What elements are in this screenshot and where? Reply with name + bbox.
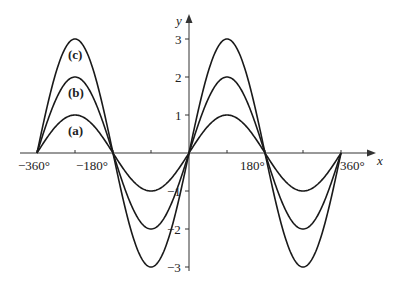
- curve-label-b: (b): [68, 85, 84, 100]
- x-tick-label-180: 180°: [240, 158, 265, 173]
- y-tick-label-2: 2: [175, 70, 182, 85]
- x-tick-label-neg360: −360°: [18, 158, 50, 173]
- y-tick-label-3: 3: [175, 32, 182, 47]
- y-tick-label-neg2: −2: [167, 222, 181, 237]
- curve-label-a: (a): [68, 123, 83, 138]
- y-tick-label-1: 1: [175, 108, 182, 123]
- curve-label-c: (c): [68, 47, 82, 62]
- sine-chart: −360° −180° 180° 360° x y 3 2 1 −1 −2 −3…: [0, 0, 402, 283]
- y-tick-label-neg3: −3: [167, 260, 181, 275]
- x-axis-label: x: [376, 153, 383, 168]
- y-axis-arrow-icon: [186, 14, 193, 23]
- x-tick-label-360: 360°: [340, 158, 365, 173]
- x-axis-arrow-icon: [367, 150, 376, 157]
- y-axis-label: y: [174, 13, 182, 28]
- y-tick-label-neg1: −1: [167, 184, 181, 199]
- x-tick-label-neg180: −180°: [76, 158, 108, 173]
